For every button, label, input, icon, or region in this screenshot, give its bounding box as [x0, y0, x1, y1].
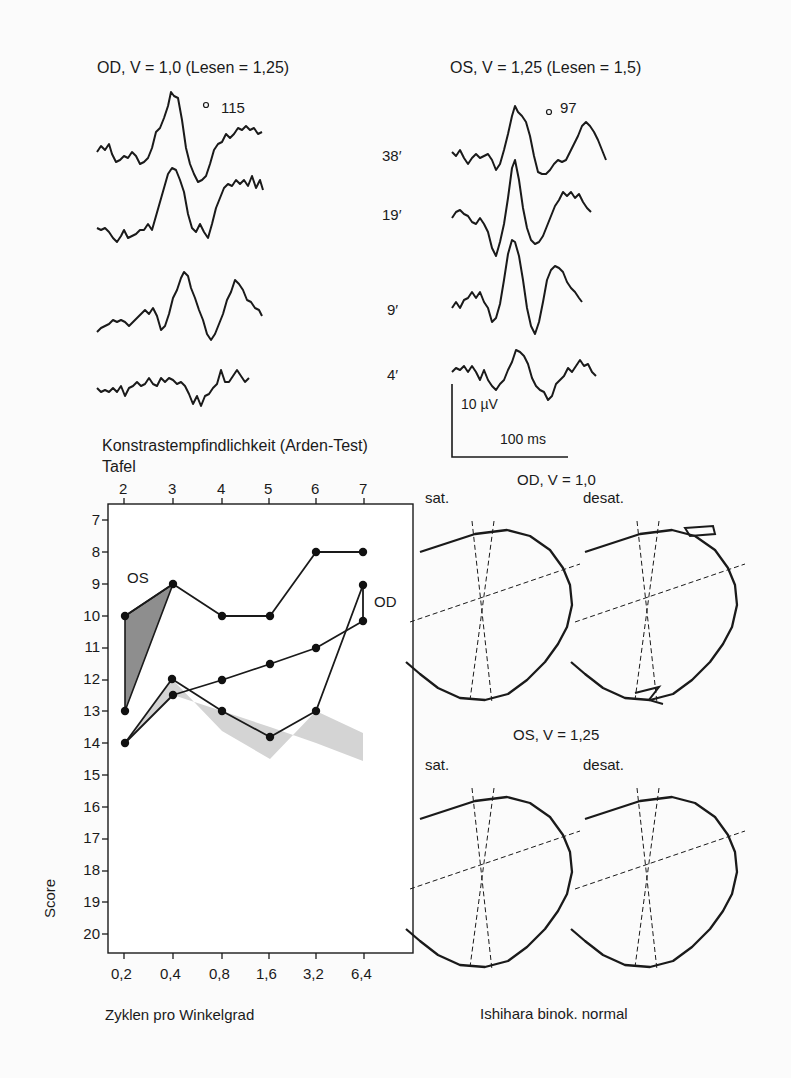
ishihara-os-desat	[571, 788, 745, 970]
ishihara-os-sat	[406, 788, 580, 970]
ishihara-od-desat	[571, 521, 745, 704]
ishihara-plots	[0, 0, 791, 1078]
ishihara-od-sat	[406, 521, 580, 703]
